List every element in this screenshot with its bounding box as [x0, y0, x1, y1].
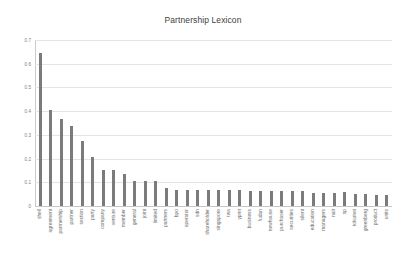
x-label-slot: education — [308, 208, 319, 276]
x-axis-labels: shellagreementpartnershippartnersectionp… — [35, 208, 392, 276]
bar-slot — [382, 40, 393, 206]
x-axis-tick-label: section — [80, 209, 85, 225]
x-axis-tick-label: sp — [342, 209, 347, 214]
bar — [144, 181, 147, 206]
y-axis-tick-label: 0.6 — [25, 61, 31, 66]
x-axis-tick-label: business — [248, 209, 253, 228]
bar — [112, 170, 115, 206]
x-axis-tick-label: company — [101, 209, 106, 229]
x-label-slot: venture — [109, 208, 120, 276]
bar — [259, 191, 262, 206]
bar — [186, 190, 189, 206]
x-label-slot: member — [119, 208, 130, 276]
bar-slot — [308, 40, 319, 206]
x-axis-tick-label: units — [384, 209, 389, 219]
bar — [291, 191, 294, 206]
bar-slot — [224, 40, 235, 206]
x-label-slot: fudan — [256, 208, 267, 276]
bar-slot — [340, 40, 351, 206]
bar — [60, 119, 63, 206]
y-axis-tick-label: 0.3 — [25, 132, 31, 137]
bar-slot — [67, 40, 78, 206]
bar — [375, 195, 378, 206]
x-label-slot: ypmt — [235, 208, 246, 276]
bar-slot — [277, 40, 288, 206]
x-axis-tick-label: ypmt — [237, 209, 242, 220]
bar — [228, 190, 231, 206]
bar-slot — [287, 40, 298, 206]
x-label-slot: singapore — [214, 208, 225, 276]
x-label-slot: shell — [35, 208, 46, 276]
bar — [154, 181, 157, 206]
bar — [217, 190, 220, 206]
bar-slot — [298, 40, 309, 206]
x-axis-tick-label: twa — [227, 209, 232, 217]
bar — [354, 194, 357, 206]
x-axis-tick-label: shell — [38, 209, 43, 219]
x-axis-tick-label: managers — [321, 209, 326, 231]
bar — [343, 192, 346, 206]
x-axis-tick-label: fudan — [258, 209, 263, 221]
x-label-slot: general — [130, 208, 141, 276]
x-axis-tick-label: agreement — [48, 209, 53, 232]
bar-slot — [172, 40, 183, 206]
bar-slot — [88, 40, 99, 206]
bar — [364, 194, 367, 206]
x-axis-tick-label: sdn — [195, 209, 200, 217]
bar — [280, 191, 283, 206]
y-axis-tick-label: 0.2 — [25, 156, 31, 161]
x-label-slot: agreement — [46, 208, 57, 276]
bar-slot — [235, 40, 246, 206]
bar-slot — [151, 40, 162, 206]
x-label-slot: company — [98, 208, 109, 276]
bar-slot — [140, 40, 151, 206]
x-axis-tick-label: education — [311, 209, 316, 230]
x-axis-tick-label: member — [122, 209, 127, 227]
x-label-slot: managers — [319, 208, 330, 276]
x-label-slot: party — [88, 208, 99, 276]
x-label-slot: shareholder — [203, 208, 214, 276]
bar — [333, 193, 336, 206]
bar — [123, 174, 126, 206]
x-label-slot: nait — [329, 208, 340, 276]
bar-slot — [77, 40, 88, 206]
bar-slot — [130, 40, 141, 206]
x-label-slot: business — [245, 208, 256, 276]
bar-slot — [214, 40, 225, 206]
bar-chart: Partnership Lexicon 0.70.60.50.40.30.20.… — [0, 0, 406, 279]
x-label-slot: tokumei — [350, 208, 361, 276]
bar — [102, 170, 105, 206]
x-axis-tick-label: product — [374, 209, 379, 225]
x-label-slot: twa — [224, 208, 235, 276]
bar-slot — [98, 40, 109, 206]
bar-slot — [319, 40, 330, 206]
bar-slot — [161, 40, 172, 206]
bar — [196, 190, 199, 206]
bar-slot — [46, 40, 57, 206]
x-label-slot: units — [382, 208, 393, 276]
bar-slot — [56, 40, 67, 206]
bar-slot — [245, 40, 256, 206]
x-axis-tick-label: shareholder — [206, 209, 211, 235]
y-axis-tick-label: 0.7 — [25, 38, 31, 43]
x-axis-tick-label: bpo — [174, 209, 179, 217]
x-axis-tick-label: party — [90, 209, 95, 220]
bar — [207, 190, 210, 206]
x-label-slot: partnership — [56, 208, 67, 276]
x-axis-tick-label: general — [132, 209, 137, 225]
bar-slot — [182, 40, 193, 206]
bar-slot — [329, 40, 340, 206]
x-axis-tick-label: greenberg — [363, 209, 368, 231]
bar-slot — [119, 40, 130, 206]
bar — [133, 181, 136, 206]
bar — [70, 126, 73, 206]
x-axis-tick-label: singapore — [216, 209, 221, 230]
bar — [322, 193, 325, 206]
bar-slot — [350, 40, 361, 206]
x-axis-tick-label: securities — [290, 209, 295, 230]
bar — [270, 191, 273, 206]
x-label-slot: silent — [298, 208, 309, 276]
x-axis-tick-label: silent — [300, 209, 305, 220]
plot-area: 0.70.60.50.40.30.20.10 — [35, 40, 392, 206]
x-axis-tick-label: nait — [332, 209, 337, 217]
